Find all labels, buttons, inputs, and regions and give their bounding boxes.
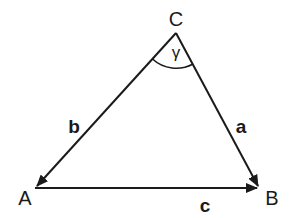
vertex-a-label: A [18,187,32,209]
vertex-c-label: C [169,8,183,30]
side-b-label: b [68,116,80,137]
vertex-b-label: B [265,187,278,209]
side-c-label: c [200,195,211,216]
side-a-arrow [176,33,258,186]
side-a-label: a [236,116,247,137]
triangle-diagram: C γ A B b a c [0,0,291,218]
side-b-arrow [37,33,176,186]
angle-gamma-label: γ [172,43,181,62]
